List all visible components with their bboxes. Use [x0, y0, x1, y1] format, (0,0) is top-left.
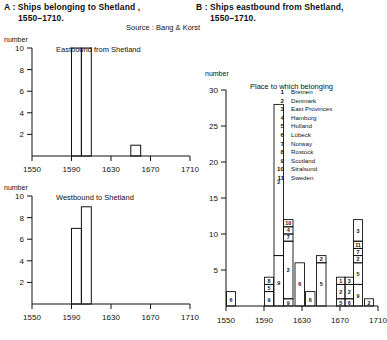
svg-text:15: 15 [209, 194, 218, 203]
chart-b-eastbound-stacked: 30 25 20 15 10 5 1550 1590 1630 1710 171… [196, 78, 387, 328]
stacked-bar: 2 [365, 299, 374, 306]
svg-text:10: 10 [209, 230, 218, 239]
stacked-bar: 6 2 3 [345, 277, 354, 306]
svg-text:3: 3 [357, 228, 360, 234]
svg-text:2: 2 [368, 300, 371, 306]
stacked-bar: 9 2 7 4 10 [284, 220, 294, 306]
svg-text:1590: 1590 [63, 313, 81, 322]
svg-text:5: 5 [320, 281, 323, 287]
svg-text:1550: 1550 [23, 313, 41, 322]
svg-text:2: 2 [348, 289, 351, 295]
bars-eastbound [72, 48, 141, 156]
bar [81, 48, 91, 156]
svg-text:10: 10 [285, 220, 291, 226]
svg-text:6: 6 [230, 297, 233, 303]
svg-text:1630: 1630 [102, 313, 120, 322]
bar [72, 48, 82, 156]
svg-text:6: 6 [20, 87, 25, 96]
chart-a-eastbound: 10 8 6 4 2 1550 1590 1630 1670 1710 [0, 44, 196, 174]
svg-text:30: 30 [209, 86, 218, 95]
svg-text:5: 5 [214, 266, 219, 275]
stacked-bar: 9 5 2 7 11 3 [354, 220, 363, 306]
y-ticks: 30 25 20 15 10 5 [209, 86, 226, 275]
svg-text:6: 6 [348, 300, 351, 306]
svg-text:1550: 1550 [23, 165, 41, 174]
figure-root: A : Ships belonging to Shetland , 1550–1… [0, 0, 387, 340]
panel-a-title-line2: 1550–1710. [18, 13, 140, 24]
svg-text:5: 5 [357, 271, 360, 277]
bar [72, 228, 82, 304]
bars-westbound [72, 207, 92, 304]
svg-text:5: 5 [339, 300, 342, 306]
stacked-bars: 6 9 5 8 9 2 [227, 104, 374, 306]
svg-text:11: 11 [355, 242, 361, 248]
stacked-bar: 6 [295, 263, 305, 306]
x-ticks: 1550 1590 1630 1670 1710 [23, 304, 199, 322]
svg-text:9: 9 [268, 297, 271, 303]
svg-text:25: 25 [209, 122, 218, 131]
svg-text:20: 20 [209, 158, 218, 167]
svg-text:9: 9 [277, 280, 280, 286]
svg-text:2: 2 [287, 267, 290, 273]
stacked-bar: 6 [227, 292, 236, 306]
svg-text:2: 2 [320, 256, 323, 262]
svg-text:2: 2 [20, 130, 25, 139]
panel-a-title-line1: A : Ships belonging to Shetland , [4, 2, 140, 12]
axis-label-number-a-top: number [4, 36, 28, 43]
svg-text:1670: 1670 [142, 313, 160, 322]
bar [81, 207, 91, 304]
svg-text:1630: 1630 [293, 316, 311, 325]
svg-text:4: 4 [287, 227, 290, 233]
svg-text:4: 4 [20, 109, 25, 118]
svg-text:7: 7 [357, 249, 360, 255]
svg-text:7: 7 [287, 234, 290, 240]
panel-b-title-line2: 1550–1710. [210, 13, 343, 24]
stacked-bar: 5 2 [317, 256, 327, 306]
svg-text:1: 1 [339, 278, 342, 284]
bar [131, 145, 141, 156]
svg-text:1630: 1630 [102, 165, 120, 174]
panel-a-title: A : Ships belonging to Shetland , 1550–1… [4, 2, 140, 24]
axis-label-number-a-bottom: number [4, 184, 28, 191]
stacked-bar: 9 5 8 [265, 277, 274, 306]
panel-b-title: B : Ships eastbound from Shetland, 1550–… [196, 2, 343, 24]
svg-text:1550: 1550 [217, 316, 235, 325]
x-ticks: 1550 1590 1630 1670 1710 [23, 156, 199, 174]
chart-a-westbound: 10 8 6 4 2 1550 1590 1630 1670 1710 [0, 192, 196, 322]
svg-text:8: 8 [268, 278, 271, 284]
source-note: Source : Bang & Korst [126, 23, 200, 32]
svg-text:2: 2 [357, 256, 360, 262]
svg-text:1590: 1590 [255, 316, 273, 325]
svg-text:8: 8 [20, 214, 25, 223]
svg-text:2: 2 [339, 289, 342, 295]
svg-text:9: 9 [357, 293, 360, 299]
svg-text:3: 3 [348, 278, 351, 284]
svg-text:6: 6 [298, 281, 301, 287]
svg-text:1670: 1670 [331, 316, 349, 325]
stacked-bar: 5 2 1 [337, 277, 346, 306]
svg-text:5: 5 [268, 285, 271, 291]
svg-text:6: 6 [20, 235, 25, 244]
svg-text:1670: 1670 [142, 165, 160, 174]
y-ticks: 10 8 6 4 2 [15, 192, 32, 287]
x-ticks: 1550 1590 1630 1710 1710 [217, 306, 387, 325]
svg-text:10: 10 [15, 44, 24, 53]
svg-text:8: 8 [20, 66, 25, 75]
svg-text:10: 10 [15, 192, 24, 201]
panel-b-title-line1: B : Ships eastbound from Shetland, [196, 2, 343, 12]
stacked-bar: 9 2 [274, 104, 284, 306]
svg-text:6: 6 [309, 297, 312, 303]
svg-text:4: 4 [20, 257, 25, 266]
svg-text:2: 2 [277, 179, 280, 185]
svg-text:1710: 1710 [369, 316, 387, 325]
svg-text:9: 9 [287, 300, 290, 306]
y-ticks: 10 8 6 4 2 [15, 44, 32, 139]
stacked-bar: 6 [306, 292, 316, 306]
svg-text:1590: 1590 [63, 165, 81, 174]
axis-label-number-b: number [205, 70, 229, 77]
svg-text:2: 2 [20, 278, 25, 287]
